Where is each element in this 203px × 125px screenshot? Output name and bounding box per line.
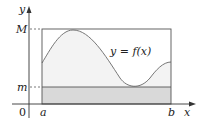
y-axis-arrow-icon [27,6,32,13]
origin-label: 0 [19,106,26,119]
lower-rectangle-m [42,87,171,104]
b-label: b [168,106,175,119]
x-axis-label: x [184,106,191,119]
a-label: a [40,106,47,119]
curve-label: y = f(x) [109,45,151,58]
M-label: M [15,23,28,36]
m-label: m [17,81,27,94]
integral-bounds-diagram: y x M m 0 a b y = f(x) [0,0,203,125]
y-axis-label: y [18,3,26,16]
